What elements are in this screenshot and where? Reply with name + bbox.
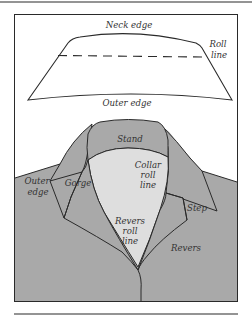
label-collar-roll-line-1: Collar xyxy=(135,160,162,170)
label-outer-edge-flat: Outer edge xyxy=(102,98,151,108)
label-collar-roll-line-3: line xyxy=(140,180,156,190)
label-revers-roll-line-1: Revers xyxy=(114,216,146,226)
label-revers-roll-line-2: roll xyxy=(123,226,138,236)
label-stand: Stand xyxy=(117,134,143,144)
collar-diagram: Neck edge Roll line Outer edge Stand Col… xyxy=(0,0,252,317)
label-step: Step xyxy=(187,203,207,213)
label-collar-roll-line-2: roll xyxy=(141,170,156,180)
label-revers: Revers xyxy=(170,243,202,253)
label-neck-edge: Neck edge xyxy=(105,20,153,30)
label-outer-edge-1: Outer xyxy=(24,176,50,186)
label-gorge: Gorge xyxy=(65,178,92,188)
diagram-svg: Neck edge Roll line Outer edge Stand Col… xyxy=(0,0,252,317)
label-revers-roll-line-3: line xyxy=(122,236,138,246)
label-roll-line-1: Roll xyxy=(208,39,226,49)
label-outer-edge-2: edge xyxy=(27,187,48,197)
label-roll-line-2: line xyxy=(211,50,227,60)
